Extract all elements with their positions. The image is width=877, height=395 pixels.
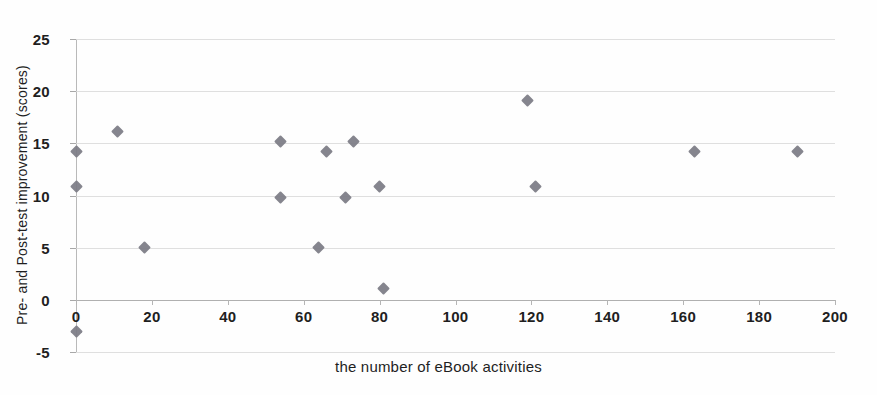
x-tick-label-200: 200	[822, 308, 848, 325]
data-point	[377, 282, 390, 295]
y-tick-label-25: 25	[0, 31, 62, 48]
x-tick-label-140: 140	[594, 308, 620, 325]
y-tick-15	[70, 143, 76, 144]
x-tick-100	[456, 300, 457, 305]
gridline-y-15	[76, 143, 835, 144]
data-point	[111, 125, 124, 138]
x-tick-40	[228, 300, 229, 305]
y-tick-25	[70, 39, 76, 40]
data-point	[320, 145, 333, 158]
x-axis-title: the number of eBook activities	[0, 358, 877, 375]
x-tick-label-60: 60	[295, 308, 312, 325]
x-tick-label-120: 120	[518, 308, 544, 325]
gridline-y-10	[76, 196, 835, 197]
x-tick-label-40: 40	[219, 308, 236, 325]
gridline-y-25	[76, 39, 835, 40]
x-tick-160	[683, 300, 684, 305]
data-point	[339, 191, 352, 204]
y-tick-label-0: 0	[0, 291, 62, 308]
y-tick-label-15: 15	[0, 135, 62, 152]
data-point	[791, 145, 804, 158]
x-tick-60	[304, 300, 305, 305]
gridline-y-20	[76, 91, 835, 92]
x-tick-label-180: 180	[746, 308, 772, 325]
x-tick-180	[759, 300, 760, 305]
x-tick-label-20: 20	[143, 308, 160, 325]
y-tick-label-20: 20	[0, 83, 62, 100]
data-point	[529, 180, 542, 193]
x-tick-label-0: 0	[72, 308, 81, 325]
scatter-chart-figure: Pre- and Post-test improvement (scores) …	[0, 0, 877, 395]
data-point	[70, 145, 83, 158]
x-tick-label-100: 100	[443, 308, 469, 325]
y-tick-label-10: 10	[0, 187, 62, 204]
data-point	[688, 145, 701, 158]
x-tick-0	[76, 300, 77, 305]
y-tick-5	[70, 248, 76, 249]
data-point	[70, 325, 83, 338]
data-point	[70, 180, 83, 193]
data-point	[313, 241, 326, 254]
data-point	[521, 94, 534, 107]
x-tick-80	[380, 300, 381, 305]
y-tick-20	[70, 91, 76, 92]
x-tick-label-160: 160	[670, 308, 696, 325]
x-tick-label-80: 80	[371, 308, 388, 325]
y-tick--5	[70, 352, 76, 353]
plot-area	[76, 39, 835, 352]
y-tick-label-5: 5	[0, 239, 62, 256]
gridline-y--5	[76, 352, 835, 353]
x-tick-120	[531, 300, 532, 305]
data-point	[275, 191, 288, 204]
gridline-y-5	[76, 248, 835, 249]
x-tick-20	[152, 300, 153, 305]
x-tick-140	[607, 300, 608, 305]
data-point	[347, 135, 360, 148]
data-point	[373, 180, 386, 193]
x-tick-200	[835, 300, 836, 305]
data-point	[138, 241, 151, 254]
y-tick-10	[70, 196, 76, 197]
data-point	[275, 135, 288, 148]
